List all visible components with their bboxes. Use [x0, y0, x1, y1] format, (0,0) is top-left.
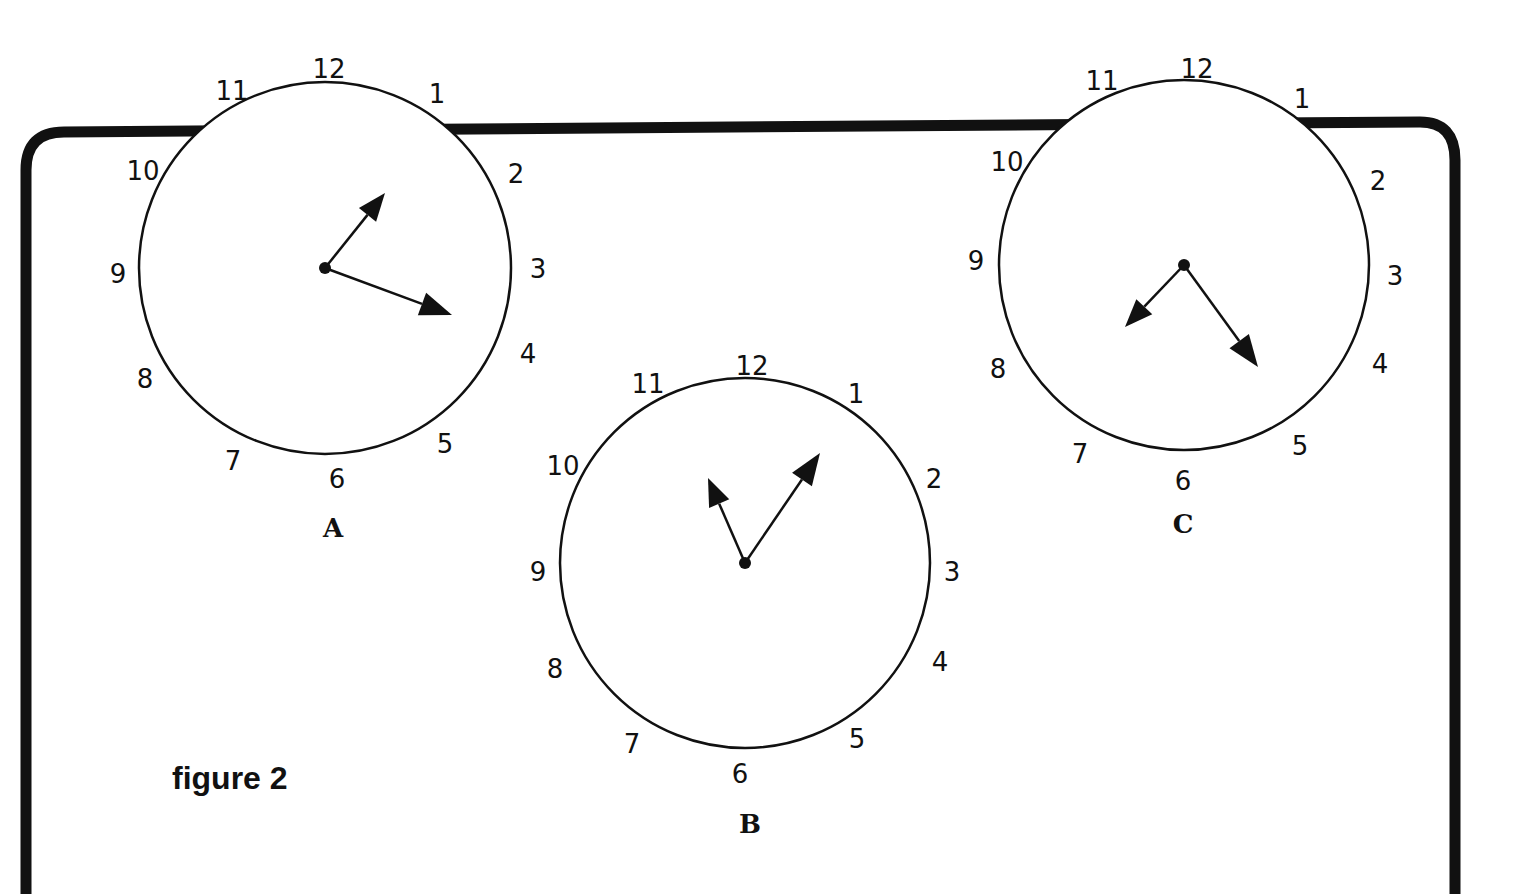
clock-numeral-11: 11 — [1085, 66, 1118, 96]
figure-canvas: 123456789101112A123456789101112B12345678… — [0, 0, 1519, 894]
clock-numeral-12: 12 — [735, 351, 768, 381]
clock-numeral-6: 6 — [329, 464, 346, 494]
clock-numeral-7: 7 — [225, 446, 242, 476]
figure-caption: figure 2 — [172, 760, 288, 797]
clock-numeral-10: 10 — [990, 147, 1023, 177]
clock-numeral-10: 10 — [126, 156, 159, 186]
clock-numeral-9: 9 — [530, 557, 547, 587]
clock-numeral-4: 4 — [932, 647, 949, 677]
clock-numeral-4: 4 — [1372, 349, 1389, 379]
clock-numeral-12: 12 — [1180, 54, 1213, 84]
clock-numeral-8: 8 — [547, 654, 564, 684]
clock-numeral-1: 1 — [1294, 84, 1311, 114]
clock-numeral-6: 6 — [1175, 466, 1192, 496]
clock-numeral-1: 1 — [429, 79, 446, 109]
clock-numeral-1: 1 — [848, 379, 865, 409]
clock-numeral-4: 4 — [520, 339, 537, 369]
clock-pivot-dot — [1178, 259, 1190, 271]
clock-numeral-11: 11 — [215, 76, 248, 106]
clock-numeral-3: 3 — [944, 557, 961, 587]
clock-numeral-10: 10 — [546, 451, 579, 481]
clock-numeral-3: 3 — [1387, 261, 1404, 291]
clock-numeral-2: 2 — [1370, 166, 1387, 196]
clock-numeral-7: 7 — [1072, 439, 1089, 469]
clock-numeral-9: 9 — [110, 259, 127, 289]
clock-label: B — [739, 809, 761, 839]
clock-numeral-12: 12 — [312, 54, 345, 84]
clock-pivot-dot — [319, 262, 331, 274]
clock-numeral-11: 11 — [631, 369, 664, 399]
clock-label: A — [322, 513, 344, 543]
clock-numeral-5: 5 — [437, 429, 454, 459]
clock-numeral-9: 9 — [968, 246, 985, 276]
clock-numeral-2: 2 — [926, 464, 943, 494]
clock-numeral-2: 2 — [508, 159, 525, 189]
clock-pivot-dot — [739, 557, 751, 569]
clock-numeral-8: 8 — [990, 354, 1007, 384]
clock-numeral-6: 6 — [732, 759, 749, 789]
clock-numeral-5: 5 — [849, 724, 866, 754]
clock-numeral-3: 3 — [530, 254, 547, 284]
clocks-group: 123456789101112A123456789101112B12345678… — [110, 54, 1404, 840]
clock-label: C — [1173, 509, 1194, 539]
clock-numeral-5: 5 — [1292, 431, 1309, 461]
clock-numeral-8: 8 — [137, 364, 154, 394]
clock-numeral-7: 7 — [624, 729, 641, 759]
clock-b: 123456789101112B — [530, 351, 961, 840]
